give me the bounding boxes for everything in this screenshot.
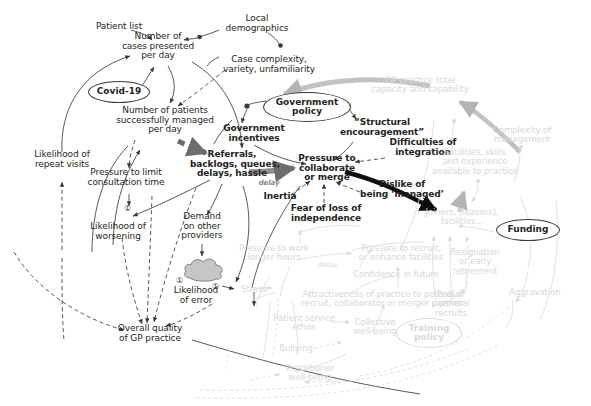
node-joiners-leavers[interactable]: Joiners, (leavers), facilities... [414,208,510,227]
node-demand-other-providers[interactable]: Demand on other providers [172,212,232,241]
node-cases-presented[interactable]: Number of cases presented per day [112,32,204,61]
diagram-canvas: Patient list Local demographics Number o… [0,0,591,406]
node-referrals-backlogs[interactable]: Referrals, backlogs, queues, delays, has… [190,150,274,179]
node-likelihood-worsening[interactable]: Likelihood of worsening [76,222,160,241]
node-overall-quality[interactable]: Overall quality of GP practice [104,324,196,343]
node-facilities-skills[interactable]: Facilities, skills and experience availa… [420,148,530,176]
node-patients-managed[interactable]: Number of patients successfully managed … [100,106,230,135]
node-pool-potential-recruits[interactable]: Pool of potential recruits [424,290,478,318]
node-government-incentives[interactable]: Government incentives [214,124,294,143]
node-case-complexity[interactable]: Case complexity, variety, unfamiliarity [208,55,330,74]
node-confidence-future[interactable]: Confidence in future [348,270,444,279]
node-structural-encouragement[interactable]: “Structural encouragement” [336,118,428,137]
node-pressure-work-longer[interactable]: Pressure to work longer hours [232,244,316,263]
delay-label-1: delay [252,180,286,188]
node-bullying[interactable]: Bullying [272,344,320,353]
node-local-demographics[interactable]: Local demographics [220,14,294,33]
node-training-policy[interactable]: Training policy [396,318,462,348]
node-resignation-early-retirement[interactable]: Resignation or early retirement [440,248,510,276]
node-fear-loss-independence[interactable]: Fear of loss of independence [286,204,366,223]
node-patient-service-ethos[interactable]: Patient service ethos [268,314,340,333]
cloud-icon [182,256,226,282]
node-inertia[interactable]: Inertia [258,192,302,202]
loop-marker-2: ① [176,276,183,285]
node-complexity-management[interactable]: Complexity of management [482,126,562,145]
loop-marker-3: ① [212,282,219,291]
delay-label-2: delay [310,262,344,270]
node-covid19[interactable]: Covid-19 [88,81,150,103]
node-pressure-recruit[interactable]: Pressure to recruit, or enhance faciliti… [350,244,452,263]
node-pressure-limit-consultation[interactable]: Pressure to limit consultation time [74,168,178,187]
node-practitioner-wellbeing[interactable]: Practitioner well-being [272,364,348,383]
node-stress[interactable]: Stress [236,285,272,294]
node-aggravation[interactable]: Aggravation [502,288,568,297]
node-dislike-managed[interactable]: Dislike of being ‘managed’ [358,180,446,199]
node-likelihood-error[interactable]: Likelihood of error [160,286,232,305]
node-funding[interactable]: Funding [496,219,560,241]
node-pressure-collaborate[interactable]: Pressure to collaborate or merge [298,154,356,183]
loop-marker-1: ① [124,204,131,213]
node-gp-total-capacity[interactable]: GP practice total capacity and capabilit… [352,76,488,95]
